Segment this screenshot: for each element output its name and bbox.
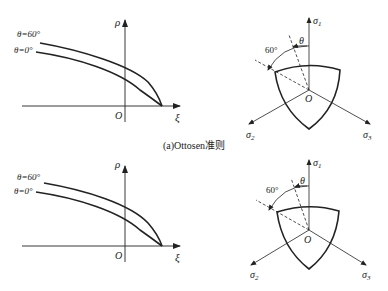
rho-label: ρ	[114, 158, 120, 170]
curve-label-theta-0: θ=0°	[14, 45, 33, 55]
xi-label: ξ	[175, 251, 180, 264]
curve-theta-0	[36, 52, 162, 106]
curve-label-theta-60: θ=60°	[17, 172, 40, 182]
sigma3-axis	[309, 90, 370, 124]
origin-label: O	[115, 110, 122, 121]
dashed-ray-60	[255, 60, 309, 90]
angle-label-60: 60°	[266, 185, 279, 195]
dashed-ray-60	[256, 200, 309, 230]
meridian-plot-bottom: θ=60° θ=0° ρ ξ O	[14, 158, 180, 264]
sigma2-label: σ2	[250, 269, 259, 282]
figure-caption: (a)Ottosen准则	[0, 137, 388, 152]
deviatoric-plot-top: σ1 σ2 σ3 60° θ O	[246, 15, 372, 142]
sigma3-axis	[309, 230, 366, 265]
angle-label-theta: θ	[299, 35, 304, 46]
curve-theta-60	[40, 43, 162, 106]
sigma2-axis	[251, 230, 309, 265]
origin-label: O	[304, 234, 311, 245]
sigma1-label: σ1	[313, 157, 321, 170]
curve-label-theta-0: θ=0°	[14, 186, 33, 196]
rho-label: ρ	[114, 16, 120, 28]
angle-label-60: 60°	[265, 45, 278, 55]
xi-label: ξ	[175, 111, 180, 124]
sigma3-label: σ3	[362, 269, 371, 282]
curve-theta-60	[44, 183, 162, 246]
meridian-plot-top: θ=60° θ=0° ρ ξ O	[14, 16, 180, 124]
deviatoric-plot-bottom: σ1 σ2 σ3 60° θ O	[250, 157, 371, 282]
curve-label-theta-60: θ=60°	[17, 29, 40, 39]
sigma2-axis	[249, 90, 309, 124]
sigma1-label: σ1	[313, 15, 321, 28]
origin-label: O	[115, 250, 122, 261]
angle-label-theta: θ	[300, 175, 305, 186]
origin-label: O	[305, 93, 312, 104]
